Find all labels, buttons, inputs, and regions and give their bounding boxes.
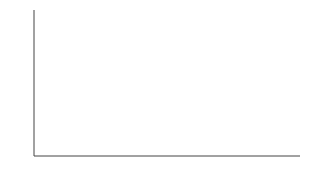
bar-chart [0, 0, 313, 192]
